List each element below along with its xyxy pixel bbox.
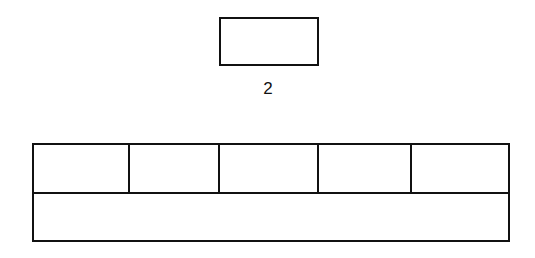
small-box (220, 18, 318, 65)
diagram-canvas (0, 0, 535, 258)
small-box-label: 2 (263, 79, 272, 99)
large-box (33, 144, 509, 241)
